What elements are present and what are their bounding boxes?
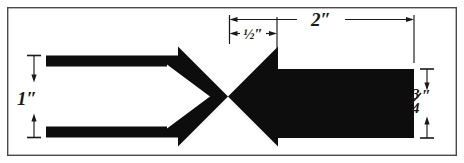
fraction-inch-mark: ″ [422,87,431,104]
figure-canvas: 1″ 2″ [0,0,464,163]
dimension-label-height-left: 1″ [17,88,37,109]
dimension-label-length-two: 2″ [310,9,331,30]
fraction-denominator: 4 [411,100,420,116]
dimension-label-gap-half: ½″ [243,26,263,42]
arrow-dimension-figure: 1″ 2″ [0,0,464,163]
